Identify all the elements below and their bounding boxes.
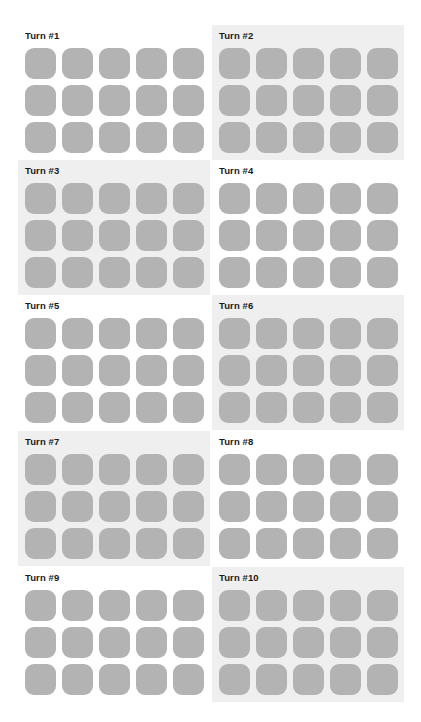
tile[interactable] (367, 48, 398, 79)
tile[interactable] (173, 392, 204, 423)
tile[interactable] (62, 627, 93, 658)
tile[interactable] (219, 392, 250, 423)
tile[interactable] (62, 528, 93, 559)
tile[interactable] (62, 454, 93, 485)
tile[interactable] (25, 590, 56, 621)
tile[interactable] (330, 318, 361, 349)
tile[interactable] (99, 392, 130, 423)
tile[interactable] (173, 590, 204, 621)
tile[interactable] (99, 318, 130, 349)
tile[interactable] (293, 590, 324, 621)
tile[interactable] (62, 257, 93, 288)
tile[interactable] (367, 664, 398, 695)
tile[interactable] (256, 454, 287, 485)
tile[interactable] (25, 392, 56, 423)
tile[interactable] (219, 48, 250, 79)
tile[interactable] (25, 355, 56, 386)
tile[interactable] (256, 220, 287, 251)
tile[interactable] (219, 85, 250, 116)
tile[interactable] (62, 183, 93, 214)
tile[interactable] (293, 627, 324, 658)
tile[interactable] (62, 48, 93, 79)
tile[interactable] (293, 318, 324, 349)
tile[interactable] (330, 664, 361, 695)
tile[interactable] (99, 85, 130, 116)
tile[interactable] (330, 590, 361, 621)
tile[interactable] (256, 590, 287, 621)
tile[interactable] (330, 355, 361, 386)
tile[interactable] (173, 85, 204, 116)
tile[interactable] (330, 627, 361, 658)
tile[interactable] (256, 528, 287, 559)
tile[interactable] (25, 318, 56, 349)
tile[interactable] (256, 85, 287, 116)
tile[interactable] (367, 454, 398, 485)
tile[interactable] (293, 48, 324, 79)
tile[interactable] (173, 528, 204, 559)
tile[interactable] (367, 627, 398, 658)
tile[interactable] (62, 392, 93, 423)
tile[interactable] (173, 318, 204, 349)
tile[interactable] (367, 85, 398, 116)
tile[interactable] (293, 257, 324, 288)
tile[interactable] (136, 528, 167, 559)
tile[interactable] (256, 257, 287, 288)
tile[interactable] (99, 257, 130, 288)
tile[interactable] (330, 48, 361, 79)
tile[interactable] (25, 528, 56, 559)
tile[interactable] (62, 590, 93, 621)
tile[interactable] (136, 48, 167, 79)
tile[interactable] (136, 220, 167, 251)
tile[interactable] (25, 48, 56, 79)
tile[interactable] (173, 48, 204, 79)
tile[interactable] (136, 590, 167, 621)
tile[interactable] (219, 355, 250, 386)
tile[interactable] (330, 122, 361, 153)
tile[interactable] (99, 664, 130, 695)
tile[interactable] (62, 318, 93, 349)
tile[interactable] (62, 355, 93, 386)
tile[interactable] (330, 528, 361, 559)
tile[interactable] (25, 220, 56, 251)
tile[interactable] (173, 220, 204, 251)
tile[interactable] (330, 183, 361, 214)
tile[interactable] (256, 664, 287, 695)
tile[interactable] (293, 85, 324, 116)
tile[interactable] (173, 454, 204, 485)
tile[interactable] (25, 664, 56, 695)
tile[interactable] (219, 257, 250, 288)
tile[interactable] (367, 257, 398, 288)
tile[interactable] (293, 183, 324, 214)
tile[interactable] (330, 257, 361, 288)
tile[interactable] (25, 491, 56, 522)
tile[interactable] (219, 122, 250, 153)
tile[interactable] (99, 590, 130, 621)
tile[interactable] (256, 318, 287, 349)
tile[interactable] (367, 590, 398, 621)
tile[interactable] (136, 491, 167, 522)
tile[interactable] (25, 183, 56, 214)
tile[interactable] (136, 257, 167, 288)
tile[interactable] (99, 627, 130, 658)
tile[interactable] (99, 355, 130, 386)
tile[interactable] (367, 183, 398, 214)
tile[interactable] (293, 355, 324, 386)
tile[interactable] (367, 491, 398, 522)
tile[interactable] (367, 355, 398, 386)
tile[interactable] (136, 122, 167, 153)
tile[interactable] (293, 220, 324, 251)
tile[interactable] (256, 48, 287, 79)
tile[interactable] (293, 392, 324, 423)
tile[interactable] (25, 122, 56, 153)
tile[interactable] (136, 454, 167, 485)
tile[interactable] (367, 122, 398, 153)
tile[interactable] (25, 454, 56, 485)
tile[interactable] (219, 220, 250, 251)
tile[interactable] (173, 257, 204, 288)
tile[interactable] (330, 85, 361, 116)
tile[interactable] (99, 220, 130, 251)
tile[interactable] (99, 491, 130, 522)
tile[interactable] (293, 122, 324, 153)
tile[interactable] (25, 257, 56, 288)
tile[interactable] (62, 491, 93, 522)
